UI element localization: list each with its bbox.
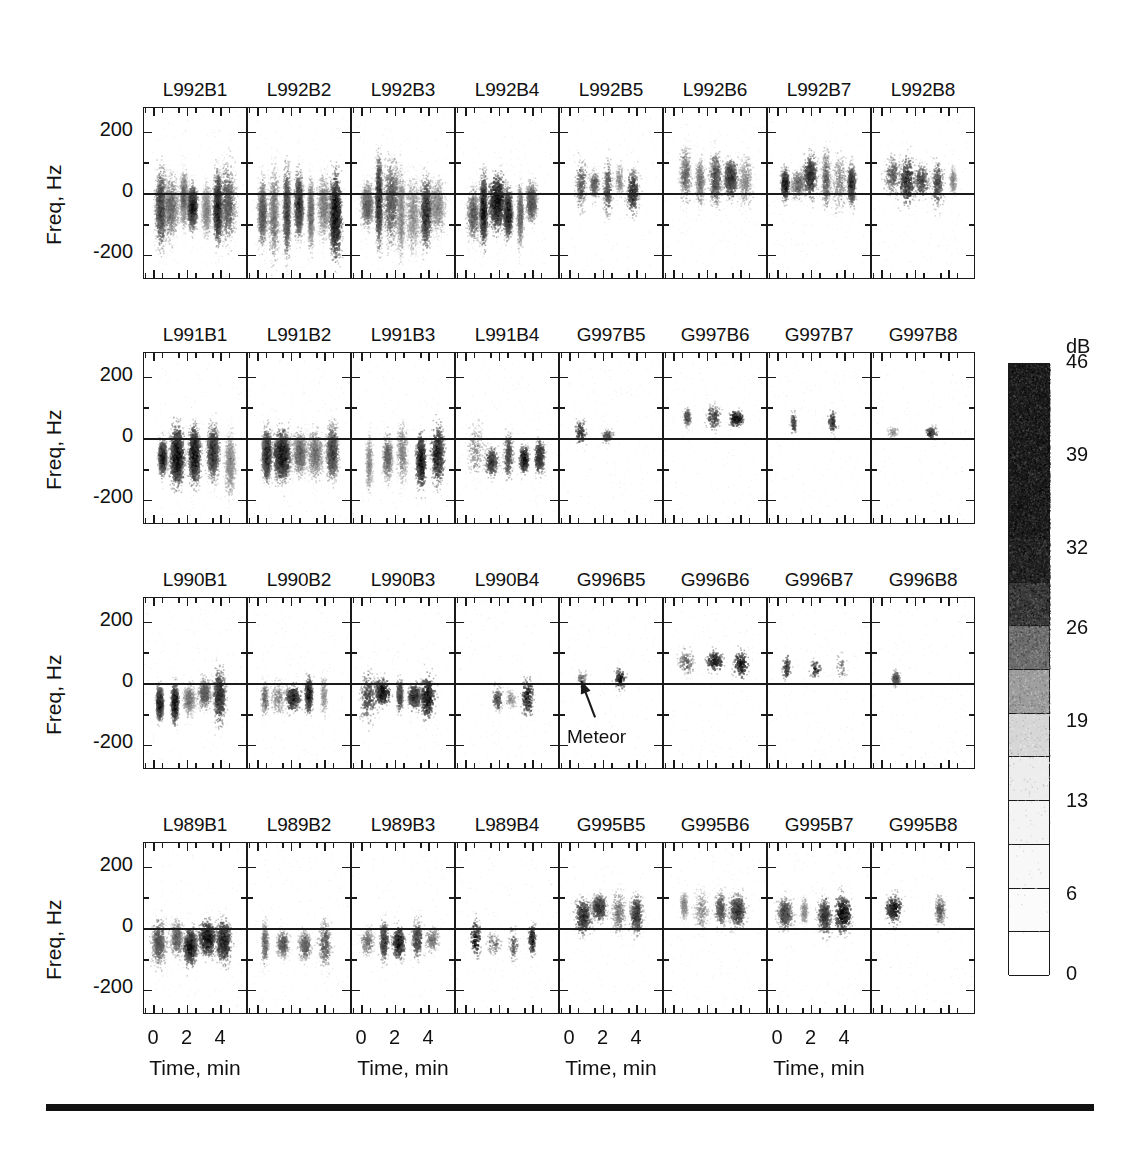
axis-tick-y xyxy=(768,162,773,164)
axis-tick-y xyxy=(664,438,672,440)
axis-tick-y xyxy=(758,500,766,502)
axis-tick-x xyxy=(873,763,875,768)
axis-tick-x xyxy=(819,843,821,848)
axis-tick-x xyxy=(698,353,700,358)
axis-tick-x xyxy=(974,353,975,358)
panel-title: G997B8 xyxy=(859,324,987,346)
axis-tick-y xyxy=(872,469,877,471)
axis-tick-x xyxy=(732,1008,734,1013)
axis-tick-x xyxy=(636,353,638,361)
axis-tick-x xyxy=(786,843,788,848)
axis-tick-y xyxy=(654,745,662,747)
axis-tick-x xyxy=(282,763,284,768)
axis-tick-x xyxy=(220,353,222,361)
axis-tick-x xyxy=(437,108,439,113)
axis-tick-x xyxy=(715,353,717,358)
axis-tick-y xyxy=(446,255,454,257)
axis-tick-y xyxy=(241,897,246,899)
axis-tick-y xyxy=(872,897,877,899)
axis-tick-x xyxy=(353,843,355,848)
axis-tick-y xyxy=(345,224,350,226)
axis-tick-x xyxy=(353,518,355,523)
spectrogram-panel xyxy=(559,842,663,1014)
axis-tick-y xyxy=(553,469,558,471)
axis-tick-x xyxy=(715,108,717,113)
axis-tick-x xyxy=(707,108,709,116)
axis-tick-x xyxy=(561,108,563,113)
axis-tick-x xyxy=(428,1005,430,1013)
axis-tick-x xyxy=(282,598,284,603)
axis-tick-x xyxy=(603,270,605,278)
axis-tick-y xyxy=(862,438,870,440)
axis-tick-x xyxy=(881,353,883,361)
axis-tick-x xyxy=(437,598,439,603)
axis-tick-x xyxy=(890,763,892,768)
axis-tick-x xyxy=(316,108,318,113)
axis-tick-x xyxy=(603,108,605,116)
axis-tick-x xyxy=(395,760,397,768)
axis-tick-x xyxy=(145,353,147,358)
axis-tick-y xyxy=(352,990,360,992)
zero-frequency-line xyxy=(144,438,246,440)
axis-tick-x xyxy=(957,273,959,278)
axis-tick-x xyxy=(178,1008,180,1013)
axis-tick-y xyxy=(664,683,672,685)
axis-tick-y xyxy=(248,377,256,379)
axis-tick-x xyxy=(665,843,667,848)
axis-tick-x xyxy=(715,273,717,278)
axis-tick-x xyxy=(853,518,855,523)
axis-tick-y xyxy=(862,745,870,747)
axis-tick-x xyxy=(395,843,397,851)
axis-tick-x xyxy=(229,518,231,523)
axis-tick-x xyxy=(386,273,388,278)
axis-tick-x xyxy=(524,1008,526,1013)
axis-tick-x xyxy=(594,353,596,358)
axis-tick-x xyxy=(316,843,318,848)
spectrogram-panel xyxy=(767,107,871,279)
axis-tick-y xyxy=(550,193,558,195)
axis-tick-y xyxy=(352,867,360,869)
axis-tick-x xyxy=(890,843,892,848)
axis-tick-x xyxy=(282,518,284,523)
axis-tick-y xyxy=(342,377,350,379)
axis-tick-x xyxy=(541,353,543,358)
spectrogram-panel xyxy=(351,842,455,1014)
axis-tick-y xyxy=(550,867,558,869)
axis-tick-x xyxy=(873,353,875,358)
axis-tick-x xyxy=(881,1005,883,1013)
axis-tick-x xyxy=(940,763,942,768)
axis-tick-y xyxy=(248,224,253,226)
x-axis-title: Time, min xyxy=(337,1056,469,1080)
axis-tick-x xyxy=(178,518,180,523)
axis-tick-x xyxy=(499,353,501,361)
axis-tick-x xyxy=(266,598,268,603)
axis-tick-x xyxy=(499,1005,501,1013)
axis-tick-y xyxy=(342,990,350,992)
axis-tick-x xyxy=(777,1005,779,1013)
axis-tick-y xyxy=(664,652,669,654)
axis-tick-x xyxy=(611,273,613,278)
axis-tick-y xyxy=(553,162,558,164)
axis-tick-y xyxy=(865,959,870,961)
axis-tick-x xyxy=(257,270,259,278)
axis-tick-y xyxy=(449,714,454,716)
axis-tick-y xyxy=(560,959,565,961)
axis-tick-y xyxy=(560,438,568,440)
axis-tick-x xyxy=(561,843,563,848)
spectrogram-panel xyxy=(247,597,351,769)
axis-tick-y xyxy=(238,867,246,869)
axis-tick-x xyxy=(732,598,734,603)
axis-tick-y xyxy=(248,469,253,471)
axis-tick-x xyxy=(403,108,405,113)
axis-tick-x xyxy=(465,108,467,116)
axis-tick-x xyxy=(665,273,667,278)
zero-frequency-line xyxy=(560,438,662,440)
axis-tick-x xyxy=(974,273,975,278)
axis-tick-x xyxy=(707,843,709,851)
axis-tick-x xyxy=(490,598,492,603)
axis-tick-x xyxy=(665,518,667,523)
axis-tick-x xyxy=(195,108,197,113)
axis-tick-y xyxy=(456,469,461,471)
axis-tick-y xyxy=(657,407,662,409)
axis-tick-x xyxy=(541,598,543,603)
